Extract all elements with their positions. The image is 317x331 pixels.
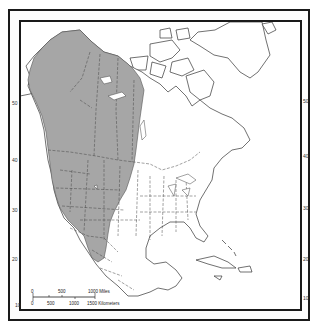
lat-label-right-40: 40: [303, 154, 309, 159]
lat-label-left-30: 30: [12, 208, 18, 213]
lat-label-left-20: 20: [12, 257, 18, 262]
jamaica: [214, 276, 222, 280]
scale-km-1000: 1000: [69, 301, 80, 306]
lat-label-left-10: 10: [15, 303, 21, 308]
baffin-island: [186, 70, 214, 100]
lat-label-right-30: 30: [303, 206, 309, 211]
hispaniola: [238, 266, 252, 272]
scale-bar: 0 500 1000 Miles 0 500 1000 1500 Kilomet…: [31, 289, 120, 306]
lat-label-right-50: 50: [303, 99, 309, 104]
greenland: [190, 22, 270, 78]
scale-km-1500: 1500 Kilometers: [87, 301, 120, 306]
scale-miles-1000: 1000 Miles: [88, 289, 111, 294]
lat-label-right-20: 20: [303, 257, 309, 262]
lat-label-right-10: 10: [303, 296, 309, 301]
lat-label-left-40: 40: [12, 158, 18, 163]
north-america-range-map: 0 500 1000 Miles 0 500 1000 1500 Kilomet…: [0, 0, 317, 331]
scale-miles-0: 0: [31, 289, 34, 294]
bahamas: [222, 240, 236, 256]
scale-km-0: 0: [31, 301, 34, 306]
scale-miles-500: 500: [58, 289, 66, 294]
lat-label-left-50: 50: [12, 101, 18, 106]
scale-km-500: 500: [47, 301, 55, 306]
cuba: [196, 256, 236, 268]
